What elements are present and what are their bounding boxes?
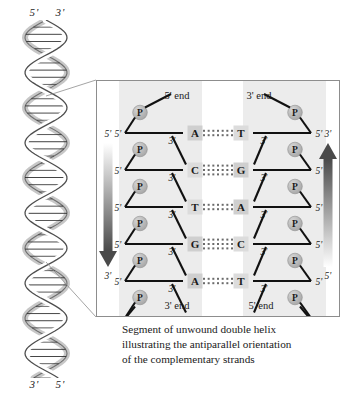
- hydrogen-bond-dot: [222, 208, 224, 210]
- left-5prime-label: 5': [115, 203, 123, 213]
- phosphate-right-2-label: P: [292, 182, 298, 192]
- dna-antiparallel-figure: 5'3' 3'5': [0, 0, 342, 406]
- hydrogen-bond-dot: [217, 165, 219, 167]
- hydrogen-bond-dot: [231, 247, 233, 249]
- hydrogen-bond-dot: [231, 134, 233, 136]
- hydrogen-bond-dot: [226, 204, 228, 206]
- hydrogen-bond-dot: [222, 239, 224, 241]
- hydrogen-bond-dot: [212, 130, 214, 132]
- hydrogen-bond-dot: [217, 247, 219, 249]
- right-5prime-label: 5': [316, 129, 324, 139]
- phosphate-right-3-label: P: [292, 219, 298, 229]
- hydrogen-bond-dot: [208, 247, 210, 249]
- hydrogen-bond-dot: [222, 169, 224, 171]
- left-backbone-diagonal: [172, 136, 186, 165]
- phosphate-right-5-label: P: [292, 293, 298, 303]
- hydrogen-bond-dot: [203, 247, 205, 249]
- hydrogen-bond-dot: [203, 239, 205, 241]
- left-backbone-diagonal: [172, 247, 186, 276]
- hydrogen-bond-dot: [217, 130, 219, 132]
- strand-diagram: 5'3'5'3'5'3'5'3'5'3'PPPPPP5'3'5'3'5'3'5'…: [97, 81, 339, 316]
- hydrogen-bond-dot: [208, 278, 210, 280]
- phosphate-left-0-label: P: [137, 108, 143, 118]
- hydrogen-bond-dot: [208, 134, 210, 136]
- hydrogen-bond-dot: [231, 173, 233, 175]
- hydrogen-bond-dot: [208, 204, 210, 206]
- phosphate-left-2-label: P: [137, 182, 143, 192]
- phosphate-left-4-label: P: [137, 256, 143, 266]
- end-label-bottom-left: 3' end: [165, 300, 191, 311]
- hydrogen-bond-dot: [212, 247, 214, 249]
- hydrogen-bond-dot: [226, 134, 228, 136]
- hydrogen-bond-dot: [212, 278, 214, 280]
- left-arrow-top-label: 5': [105, 129, 113, 139]
- end-label-top-left: 5' end: [165, 90, 191, 101]
- hydrogen-bond-dot: [222, 134, 224, 136]
- hydrogen-bond-dot: [226, 165, 228, 167]
- base-letter-right-2: A: [237, 201, 245, 213]
- hydrogen-bond-dot: [226, 247, 228, 249]
- hydrogen-bond-dot: [203, 208, 205, 210]
- hydrogen-bond-dot: [222, 204, 224, 206]
- hydrogen-bond-dot: [212, 134, 214, 136]
- caption-line-2: illustrating the antiparallel orientatio…: [122, 337, 337, 352]
- left-direction-arrow-shaft: [104, 143, 113, 251]
- caption-line-3: of the complementary strands: [122, 352, 337, 367]
- base-letter-right-1: G: [237, 164, 246, 176]
- phosphate-right-4-label: P: [292, 256, 298, 266]
- left-5prime-label: 5': [115, 240, 123, 250]
- base-letter-right-4: T: [237, 275, 245, 287]
- base-letter-left-3: G: [191, 238, 200, 250]
- hydrogen-bond-dot: [231, 278, 233, 280]
- hydrogen-bond-dot: [222, 282, 224, 284]
- hydrogen-bond-dot: [203, 169, 205, 171]
- hydrogen-bond-dot: [217, 208, 219, 210]
- hydrogen-bond-dot: [226, 243, 228, 245]
- hydrogen-bond-dot: [231, 169, 233, 171]
- hydrogen-bond-dot: [208, 169, 210, 171]
- hydrogen-bond-dot: [231, 165, 233, 167]
- hydrogen-bond-dot: [231, 208, 233, 210]
- right-direction-arrow-shaft: [324, 159, 333, 267]
- hydrogen-bond-dot: [203, 134, 205, 136]
- phosphate-right-1-label: P: [292, 145, 298, 155]
- figure-caption: Segment of unwound double helix illustra…: [122, 322, 337, 367]
- caption-line-1: Segment of unwound double helix: [122, 322, 337, 337]
- base-letter-left-4: A: [191, 275, 199, 287]
- phosphate-right-0-label: P: [292, 108, 298, 118]
- hydrogen-bond-dot: [208, 239, 210, 241]
- right-5prime-label: 5': [316, 203, 324, 213]
- hydrogen-bond-dot: [203, 282, 205, 284]
- left-5prime-label: 5': [115, 166, 123, 176]
- hydrogen-bond-dot: [212, 239, 214, 241]
- left-backbone-diagonal: [172, 210, 186, 239]
- hydrogen-bond-dot: [231, 282, 233, 284]
- hydrogen-bond-dot: [203, 278, 205, 280]
- hydrogen-bond-dot: [222, 278, 224, 280]
- phosphate-left-5-label: P: [137, 293, 143, 303]
- hydrogen-bond-dot: [208, 173, 210, 175]
- hydrogen-bond-dot: [217, 278, 219, 280]
- left-5prime-label: 5': [115, 277, 123, 287]
- hydrogen-bond-dot: [217, 239, 219, 241]
- end-label-bottom-right: 5' end: [249, 300, 275, 311]
- base-letter-left-0: A: [191, 127, 199, 139]
- base-letter-right-0: T: [237, 127, 245, 139]
- unwound-segment-panel: 5'3'5'3'5'3'5'3'5'3'PPPPPP5'3'5'3'5'3'5'…: [96, 80, 340, 317]
- base-letter-right-3: C: [237, 238, 245, 250]
- hydrogen-bond-dot: [212, 208, 214, 210]
- hydrogen-bond-dot: [212, 173, 214, 175]
- phosphate-left-3-label: P: [137, 219, 143, 229]
- hydrogen-bond-dot: [226, 173, 228, 175]
- hydrogen-bond-dot: [212, 204, 214, 206]
- phosphate-left-1-label: P: [137, 145, 143, 155]
- hydrogen-bond-dot: [217, 243, 219, 245]
- hydrogen-bond-dot: [226, 239, 228, 241]
- hydrogen-bond-dot: [226, 278, 228, 280]
- base-letter-left-2: T: [191, 201, 199, 213]
- hydrogen-bond-dot: [222, 130, 224, 132]
- hydrogen-bond-dot: [203, 130, 205, 132]
- right-5prime-label: 5': [316, 277, 324, 287]
- hydrogen-bond-dot: [231, 239, 233, 241]
- base-letter-left-1: C: [191, 164, 199, 176]
